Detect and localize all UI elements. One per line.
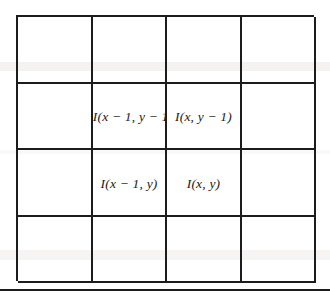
grid-cell bbox=[18, 217, 93, 283]
pixel-neighborhood-grid: I(x − 1, y − 1) I(x, y − 1) I(x − 1, y) … bbox=[16, 15, 314, 281]
horizontal-rule bbox=[0, 289, 330, 291]
grid-cell-i-xminus1-yminus1: I(x − 1, y − 1) bbox=[93, 84, 167, 150]
grid-cell bbox=[242, 150, 316, 217]
grid-cell bbox=[18, 84, 93, 150]
grid-cell bbox=[93, 217, 167, 283]
grid-cell-i-x-y: I(x, y) bbox=[167, 150, 242, 217]
grid-cell bbox=[167, 17, 242, 84]
grid-cell bbox=[167, 217, 242, 283]
grid-cell-i-xminus1-y: I(x − 1, y) bbox=[93, 150, 167, 217]
grid-cell-i-x-yminus1: I(x, y − 1) bbox=[167, 84, 242, 150]
grid-cell bbox=[18, 17, 93, 84]
grid-cell bbox=[242, 217, 316, 283]
figure-page: I(x − 1, y − 1) I(x, y − 1) I(x − 1, y) … bbox=[0, 0, 330, 297]
grid-cell-label: I(x − 1, y − 1) bbox=[93, 110, 167, 124]
grid-cell bbox=[242, 84, 316, 150]
grid-cell-label: I(x, y) bbox=[187, 177, 221, 191]
grid-cell bbox=[242, 17, 316, 84]
grid-cell bbox=[93, 17, 167, 84]
grid-cell-label: I(x − 1, y) bbox=[100, 177, 157, 191]
grid-cell-label: I(x, y − 1) bbox=[175, 110, 232, 124]
grid-cell bbox=[18, 150, 93, 217]
